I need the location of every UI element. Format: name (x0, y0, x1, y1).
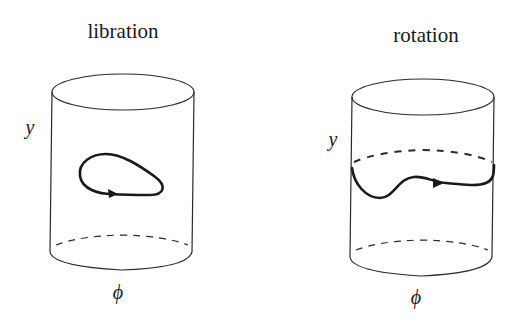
cylinder-bottom-back-edge-dashed (356, 240, 488, 250)
trajectory-back-side-dashed (354, 150, 492, 162)
rotation-title: rotation (393, 23, 459, 47)
cylinder-bottom-front-edge (350, 257, 492, 276)
rotation-trajectory (352, 165, 494, 198)
rotation-panel: rotation y ϕ (327, 23, 494, 309)
libration-title: libration (87, 19, 159, 43)
cylinder-right-edge (192, 92, 194, 252)
closed-orbit-loop (80, 154, 163, 195)
cylinder-top-ellipse (52, 74, 194, 110)
libration-trajectory (80, 154, 163, 198)
cylinder-left-edge (50, 92, 52, 252)
cylinder-bottom-back-edge-dashed (56, 235, 188, 245)
direction-arrow-icon (433, 178, 444, 188)
cylinder-top-ellipse (352, 79, 494, 115)
wrapping-orbit-curve (352, 165, 494, 198)
rotation-y-label: y (327, 128, 338, 151)
libration-phi-label: ϕ (113, 281, 123, 304)
phase-space-diagram: libration y ϕ rotation (0, 0, 519, 322)
cylinder-bottom-front-edge (50, 252, 192, 270)
cylinder-left-edge (350, 97, 352, 257)
direction-arrow-icon (108, 189, 118, 198)
rotation-phi-label: ϕ (411, 286, 421, 309)
libration-cylinder (50, 74, 194, 270)
libration-panel: libration y ϕ (24, 19, 194, 304)
diagram-svg: libration y ϕ rotation (0, 0, 519, 322)
libration-y-label: y (24, 116, 35, 139)
